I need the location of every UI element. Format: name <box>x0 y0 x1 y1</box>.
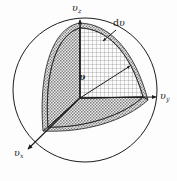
shell-thickness-label: dυ <box>113 18 125 28</box>
axis-label-vz-subscript: z <box>78 7 81 14</box>
axis-label-vz-symbol: υ <box>72 2 78 13</box>
axis-label-vx: υx <box>14 148 23 158</box>
axis-label-vy-symbol: υ <box>160 90 166 101</box>
figure-canvas <box>0 0 177 181</box>
axis-label-vx-subscript: x <box>20 152 24 159</box>
shell-thickness-symbol: υ <box>119 17 125 28</box>
axis-label-vx-symbol: υ <box>14 147 20 158</box>
axis-label-vy: υy <box>160 91 169 101</box>
radius-label: υ <box>79 73 85 82</box>
octant-wedge <box>42 23 148 131</box>
axis-label-vy-subscript: y <box>166 95 170 102</box>
axis-label-vz: υz <box>72 3 81 13</box>
velocity-space-figure: υz υy υx dυ υ <box>0 0 177 181</box>
